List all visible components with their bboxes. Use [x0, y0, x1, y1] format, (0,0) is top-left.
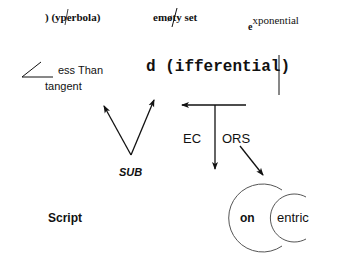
hyperbola-strike — [65, 9, 68, 25]
empty-set-slash — [172, 8, 177, 27]
sub-v-arrows-icon — [104, 100, 154, 155]
diagram-graphics — [0, 0, 337, 268]
vectors-arrows-icon — [182, 105, 263, 175]
angle-icon — [22, 62, 53, 77]
concentric-arcs-icon — [229, 184, 306, 252]
